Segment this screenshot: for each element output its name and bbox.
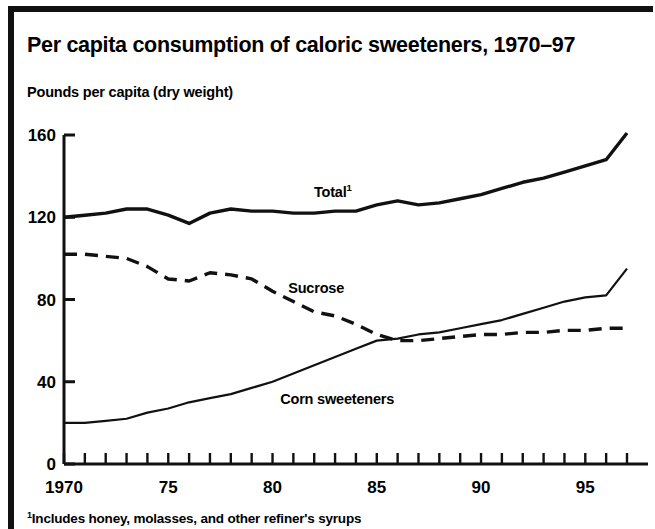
chart-figure: Per capita consumption of caloric sweete… — [0, 0, 655, 529]
y-tick-label: 80 — [10, 292, 56, 309]
series-label-sucrose: Sucrose — [288, 280, 344, 296]
y-tick-label: 40 — [10, 374, 56, 391]
y-tick-label: 160 — [10, 127, 56, 144]
chart-axes — [64, 135, 648, 464]
series-label-corn-sweeteners: Corn sweeteners — [280, 391, 394, 407]
chart-series — [64, 133, 627, 423]
x-tick-label: 90 — [451, 479, 511, 496]
chart-plot-area — [0, 0, 655, 529]
series-label-total: Total1 — [314, 184, 352, 200]
x-tick-label: 80 — [243, 479, 303, 496]
y-tick-label: 0 — [10, 456, 56, 473]
x-tick-label: 1970 — [34, 479, 94, 496]
x-tick-label: 75 — [138, 479, 198, 496]
x-tick-label: 85 — [347, 479, 407, 496]
y-tick-label: 120 — [10, 209, 56, 226]
x-tick-label: 95 — [555, 479, 615, 496]
chart-footnote: 1Includes honey, molasses, and other ref… — [27, 511, 361, 526]
